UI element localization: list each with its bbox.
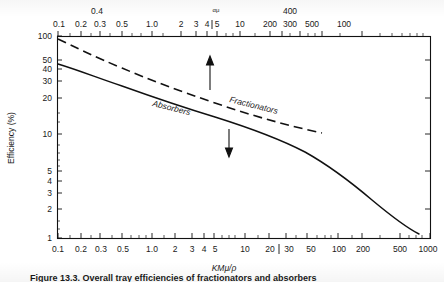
x-axis-title: KMμ/ρ — [212, 263, 237, 273]
top-axis-tick-label: 100 — [337, 19, 351, 29]
x-axis-tick-label: 500 — [393, 244, 407, 254]
x-axis-tick-label: 3 — [190, 244, 195, 254]
top-axis-tick-label: 4 — [205, 19, 210, 29]
top-axis-tick-label: 3 — [194, 19, 199, 29]
figure-container: 0.4 400 αμ 0.1 0.2 0.3 0.5 1.0 2 3 4 5 1… — [0, 0, 444, 282]
top-axis-label-0p4: 0.4 — [91, 6, 103, 16]
curve-fractionators — [58, 39, 322, 133]
top-axis-tick-label: 10 — [235, 19, 245, 29]
top-axis-ticks — [58, 31, 423, 36]
arrow-down-icon — [226, 129, 233, 157]
x-axis-tick-label: 30 — [284, 244, 294, 254]
top-axis-tick-label: 0.1 — [53, 19, 65, 29]
x-axis-tick-label: 0.5 — [117, 244, 129, 254]
x-axis-tick-label: 1000 — [419, 244, 438, 254]
x-axis-tick-label: 0.1 — [52, 244, 64, 254]
top-axis-tick-label: 1.0 — [146, 19, 158, 29]
y-axis-tick-label: 1 — [47, 233, 52, 243]
y-axis-tick-label: 5 — [47, 166, 52, 176]
top-axis-tick-label: 2 — [179, 19, 184, 29]
y-axis-tick-label: 20 — [43, 93, 53, 103]
x-axis-tick-label: 20 — [265, 244, 275, 254]
x-axis-tick-label: 50 — [306, 244, 316, 254]
x-axis-tick-label: 5 — [213, 244, 218, 254]
y-axis-tick-label: 10 — [43, 129, 53, 139]
x-axis-tick-label: 200 — [356, 244, 370, 254]
top-axis-unit-label: αμ — [213, 7, 220, 13]
top-axis-tick-label: 200 — [263, 19, 277, 29]
top-axis-tick-label: 0.2 — [75, 19, 87, 29]
top-axis-tick-label: 500 — [305, 19, 319, 29]
plot-frame — [58, 37, 431, 239]
x-axis-tick-label: 100 — [332, 244, 346, 254]
y-axis-tick-label: 4 — [47, 176, 52, 186]
y-axis-title: Efficiency (%) — [6, 112, 16, 164]
right-axis-ticks — [425, 60, 430, 209]
top-axis-tick-label: 5 — [215, 19, 220, 29]
arrow-up-icon — [207, 56, 214, 90]
data-curves — [58, 39, 419, 234]
bottom-axis-ticks — [58, 233, 430, 238]
annotation-absorbers: Absorbers — [151, 98, 233, 157]
y-axis-group: 100 50 40 30 20 10 5 4 3 2 1 — [6, 31, 62, 243]
x-axis-tick-label: 10 — [240, 244, 250, 254]
y-axis-tick-label: 3 — [47, 188, 52, 198]
y-axis-tick-label: 2 — [47, 204, 52, 214]
figure-caption: Figure 13.3. Overall tray efficiencies o… — [30, 273, 317, 282]
y-axis-tick-label: 100 — [38, 31, 52, 41]
y-axis-tick-label: 30 — [43, 76, 53, 86]
top-axis-label-400: 400 — [283, 6, 297, 16]
top-axis-tick-label: 300 — [283, 19, 297, 29]
x-axis-tick-label: 0.2 — [75, 244, 87, 254]
annotation-fractionators: Fractionators — [207, 56, 280, 116]
top-axis-tick-label: 0.3 — [94, 19, 106, 29]
top-axis-tick-label: 0.5 — [116, 19, 128, 29]
x-axis-tick-label: 0.3 — [95, 244, 107, 254]
curve-absorbers — [58, 64, 419, 234]
curve-label-fractionators: Fractionators — [229, 94, 280, 116]
curve-label-absorbers: Absorbers — [151, 98, 193, 117]
x-axis-tick-label: 4 — [202, 244, 207, 254]
x-axis-tick-label: 1.0 — [146, 244, 158, 254]
top-axis-group: 0.4 400 αμ 0.1 0.2 0.3 0.5 1.0 2 3 4 5 1… — [53, 6, 423, 36]
x-axis-tick-label: 2 — [173, 244, 178, 254]
y-axis-tick-label: 40 — [43, 64, 53, 74]
chart-svg: 0.4 400 αμ 0.1 0.2 0.3 0.5 1.0 2 3 4 5 1… — [0, 0, 444, 282]
